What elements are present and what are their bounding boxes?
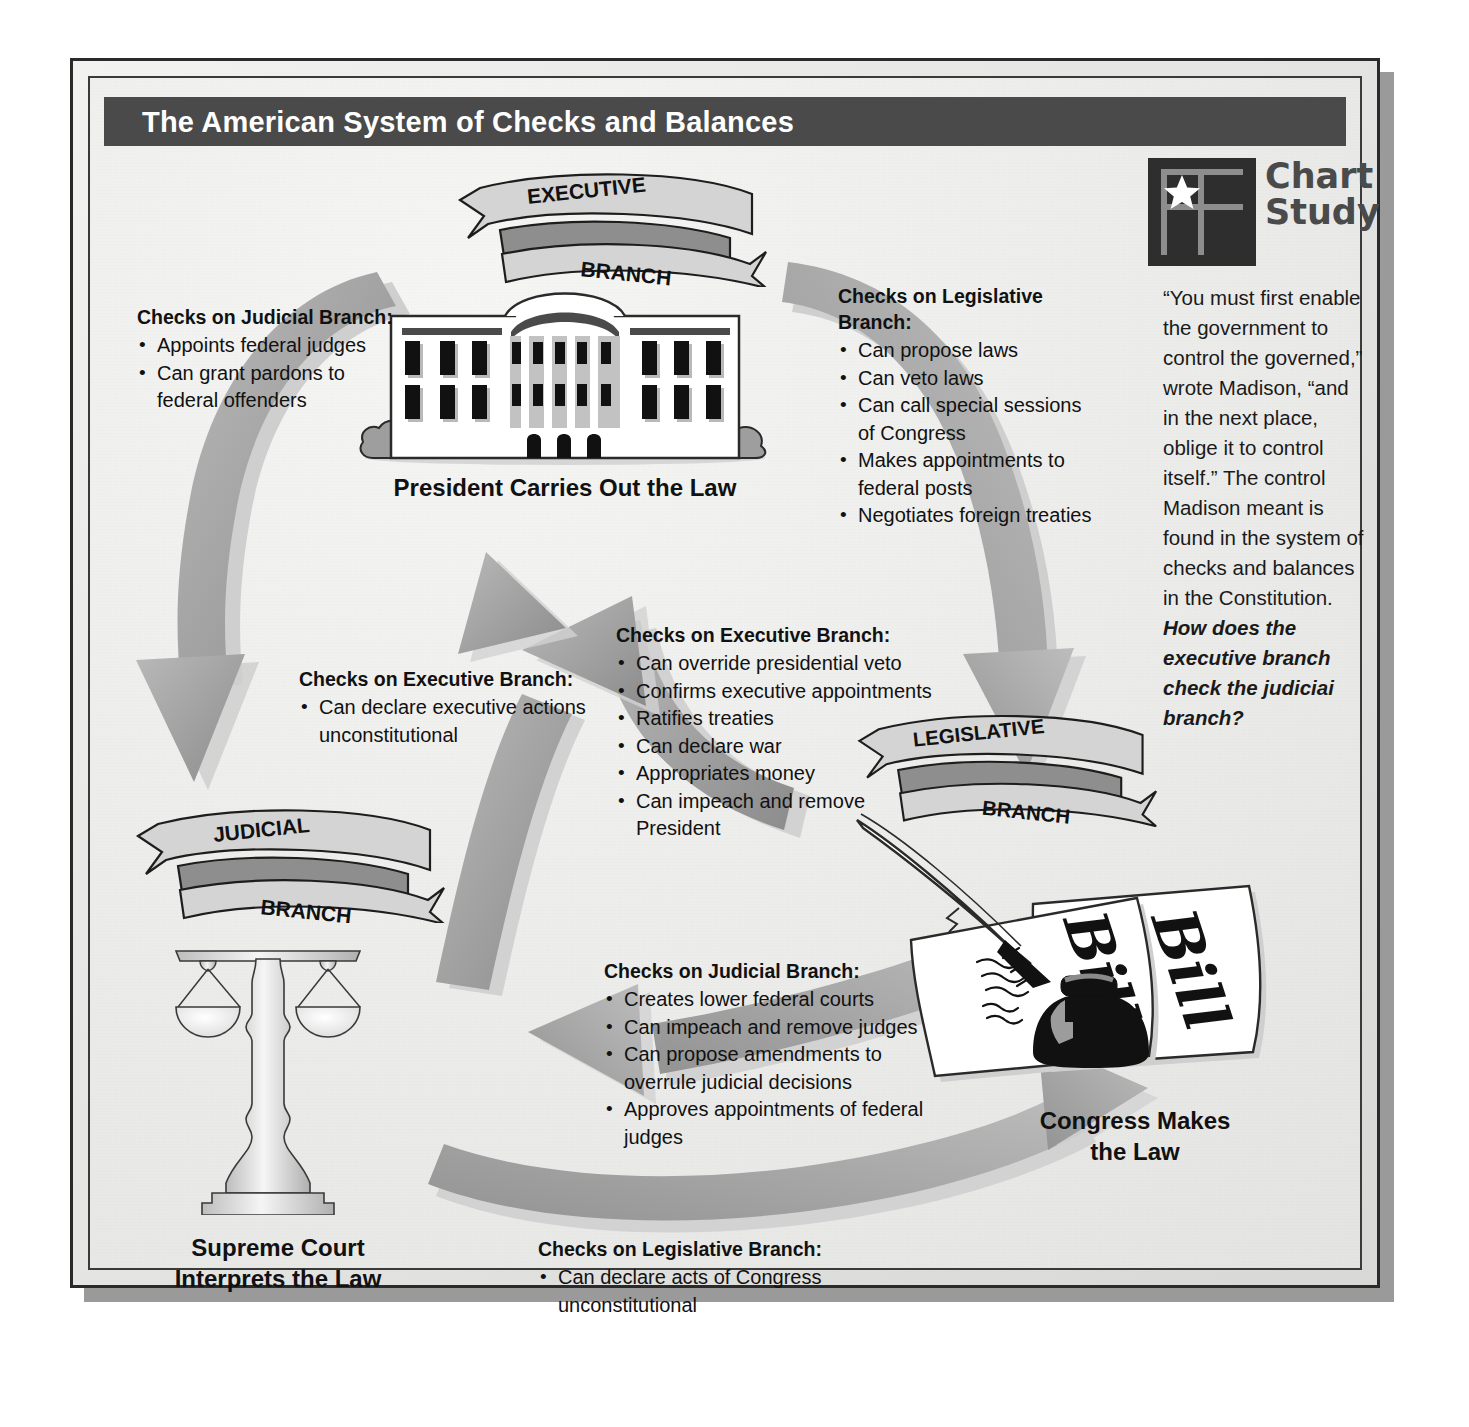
caption-president: President Carries Out the Law (345, 472, 785, 503)
list-item: Can declare war (616, 733, 946, 761)
caption-congress-line1: Congress Makes (1010, 1105, 1260, 1136)
block-heading: Checks on Executive Branch: (299, 666, 599, 692)
scales-of-justice-illustration (168, 935, 368, 1215)
block-list: Creates lower federal courts Can impeach… (604, 986, 924, 1151)
block-heading: Checks on Legislative Branch: (538, 1236, 858, 1262)
list-item: Approves appointments of federal judges (604, 1096, 924, 1151)
list-item: Makes appointments to federal posts (838, 447, 1098, 502)
caption-supreme-court-line1: Supreme Court (148, 1232, 408, 1263)
block-legislative-checks-judicial: Checks on Judicial Branch: Creates lower… (604, 958, 924, 1151)
chart-study-label: Chart Study (1265, 158, 1385, 230)
block-heading: Checks on Judicial Branch: (604, 958, 924, 984)
list-item: Can override presidential veto (616, 650, 946, 678)
block-list: Can propose laws Can veto laws Can call … (838, 337, 1098, 530)
logo-line-1: Chart (1265, 158, 1385, 194)
list-item: Ratifies treaties (616, 705, 946, 733)
block-list: Can declare acts of Congress unconstitut… (538, 1264, 858, 1319)
list-item: Can declare executive actions unconstitu… (299, 694, 599, 749)
list-item: Appoints federal judges (137, 332, 407, 360)
logo-line-2: Study (1265, 194, 1385, 230)
white-house-illustration (355, 280, 775, 465)
list-item: Can veto laws (838, 365, 1098, 393)
list-item: Can propose laws (838, 337, 1098, 365)
block-heading: Checks on Judicial Branch: (137, 304, 407, 330)
ribbon-judicial: JUDICIAL BRANCH (118, 808, 448, 923)
block-list: Appoints federal judges Can grant pardon… (137, 332, 407, 415)
block-judicial-checks-legislative: Checks on Legislative Branch: Can declar… (538, 1236, 858, 1319)
list-item: Appropriates money (616, 760, 946, 788)
list-item: Can impeach and remove judges (604, 1014, 924, 1042)
quote-body: “You must first enable the govern­ment t… (1163, 286, 1364, 609)
quote-question: How does the executive branch check the … (1163, 616, 1334, 729)
list-item: Can grant pardons to federal offenders (137, 360, 407, 415)
block-judicial-checks-executive: Checks on Executive Branch: Can declare … (299, 666, 599, 749)
caption-congress-line2: the Law (1010, 1136, 1260, 1167)
flag-star-grid-icon (1148, 158, 1256, 266)
ribbon-executive: EXECUTIVE BRANCH (440, 172, 770, 287)
block-exec-checks-legislative: Checks on Legislative Branch: Can propos… (838, 283, 1098, 530)
block-exec-checks-judicial: Checks on Judicial Branch: Appoints fede… (137, 304, 407, 415)
caption-supreme-court-line2: Interprets the Law (148, 1263, 408, 1294)
page-title: The American System of Checks and Balanc… (142, 106, 1242, 138)
list-item: Can declare acts of Congress unconstitut… (538, 1264, 858, 1319)
list-item: Negotiates foreign treaties (838, 502, 1098, 530)
list-item: Can propose amendments to overrule judic… (604, 1041, 924, 1096)
block-heading: Checks on Executive Branch: (616, 622, 946, 648)
list-item: Confirms executive appointments (616, 678, 946, 706)
list-item: Can impeach and remove President (616, 788, 946, 843)
list-item: Creates lower federal courts (604, 986, 924, 1014)
caption-congress: Congress Makes the Law (1010, 1105, 1260, 1167)
caption-supreme-court: Supreme Court Interprets the Law (148, 1232, 408, 1294)
block-list: Can declare executive actions unconstitu… (299, 694, 599, 749)
madison-quote: “You must first enable the govern­ment t… (1163, 283, 1368, 733)
chart-study-page: The American System of Checks and Balanc… (0, 0, 1469, 1427)
block-heading: Checks on Legislative Branch: (838, 283, 1098, 335)
chart-study-logo (1148, 158, 1256, 266)
list-item: Can call special sessions of Congress (838, 392, 1098, 447)
block-list: Can override presidential veto Confirms … (616, 650, 946, 843)
block-legislative-checks-executive: Checks on Executive Branch: Can override… (616, 622, 946, 843)
